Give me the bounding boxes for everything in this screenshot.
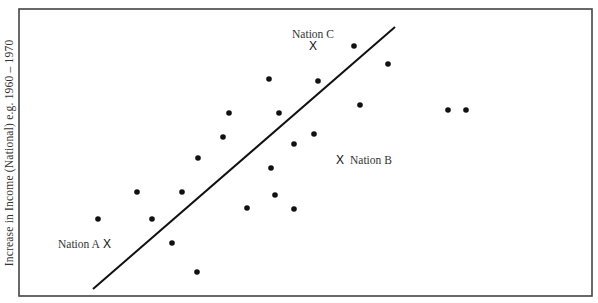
- data-point: [291, 206, 297, 212]
- x-marker-icon: X: [309, 39, 317, 53]
- annotation-nation-a: XNation A: [58, 237, 111, 251]
- data-point: [445, 107, 451, 113]
- data-point: [179, 189, 185, 195]
- data-point: [266, 76, 272, 82]
- x-marker-icon: X: [103, 237, 111, 251]
- scatter-chart: XNation AXNation BXNation C: [0, 0, 598, 303]
- data-point: [315, 78, 321, 84]
- annotation-label: Nation C: [292, 28, 334, 40]
- plot-frame: [19, 9, 592, 296]
- data-point: [244, 205, 250, 211]
- data-point: [149, 216, 155, 222]
- data-point: [385, 61, 391, 67]
- data-point: [226, 110, 232, 116]
- data-point: [291, 141, 297, 147]
- annotation-label: Nation B: [350, 154, 392, 166]
- annotation-nation-b: XNation B: [336, 153, 392, 167]
- data-point: [311, 131, 317, 137]
- data-point: [95, 216, 101, 222]
- data-point: [194, 269, 200, 275]
- annotations: XNation AXNation BXNation C: [58, 28, 392, 251]
- data-point: [134, 189, 140, 195]
- x-marker-icon: X: [336, 153, 344, 167]
- data-points: [95, 43, 469, 275]
- data-point: [463, 107, 469, 113]
- data-point: [351, 43, 357, 49]
- data-point: [357, 102, 363, 108]
- data-point: [272, 192, 278, 198]
- data-point: [276, 110, 282, 116]
- annotation-label: Nation A: [58, 238, 101, 250]
- data-point: [195, 155, 201, 161]
- data-point: [220, 134, 226, 140]
- annotation-nation-c: XNation C: [292, 28, 334, 53]
- data-point: [169, 240, 175, 246]
- data-point: [268, 165, 274, 171]
